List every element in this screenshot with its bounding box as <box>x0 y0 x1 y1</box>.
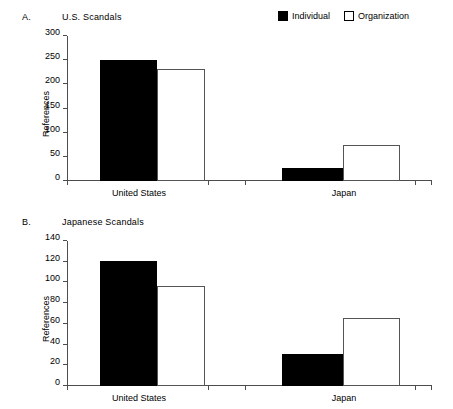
plot-area-b: References 0 20 40 60 80 100 120 140 <box>67 241 432 386</box>
x-tick-a-sep1 <box>208 181 209 185</box>
bar-b-united-states-organization <box>157 286 205 387</box>
y-tick-label-b-140: 140 <box>45 232 60 242</box>
bar-a-japan-organization <box>343 145 400 181</box>
y-tick-label-b-0: 0 <box>55 377 60 387</box>
x-category-label-a-united-states: United States <box>112 188 166 198</box>
panel-b-letter: B. <box>22 217 31 227</box>
y-tick-a-200 <box>63 83 67 84</box>
y-tick-b-120 <box>63 261 67 262</box>
y-tick-label-b-120: 120 <box>45 253 60 263</box>
x-tick-b-end <box>431 386 432 390</box>
open-square-icon <box>344 11 354 21</box>
x-tick-b-start <box>67 386 68 390</box>
figure: A. U.S. Scandals Individual Organization… <box>0 0 453 409</box>
legend-entry-organization: Organization <box>344 11 409 21</box>
y-tick-a-250 <box>63 59 67 60</box>
y-tick-b-40 <box>63 344 67 345</box>
y-tick-label-a-200: 200 <box>45 75 60 85</box>
y-tick-a-50 <box>63 156 67 157</box>
y-axis-a <box>67 36 68 181</box>
bar-a-united-states-individual <box>100 60 157 181</box>
bar-a-japan-individual <box>282 168 343 182</box>
legend: Individual Organization <box>278 11 409 21</box>
y-tick-label-a-100: 100 <box>45 124 60 134</box>
x-tick-a-sep3 <box>415 181 416 185</box>
y-tick-b-80 <box>63 302 67 303</box>
y-tick-label-a-50: 50 <box>50 148 60 158</box>
panel-b-title: Japanese Scandals <box>62 217 144 227</box>
x-category-label-b-united-states: United States <box>112 393 166 403</box>
legend-label-individual: Individual <box>292 11 330 21</box>
y-tick-label-b-20: 20 <box>50 356 60 366</box>
filled-square-icon <box>278 11 288 21</box>
x-category-label-b-japan: Japan <box>332 393 357 403</box>
legend-label-organization: Organization <box>358 11 409 21</box>
y-tick-label-a-250: 250 <box>45 51 60 61</box>
y-tick-label-b-80: 80 <box>50 294 60 304</box>
x-tick-a-start <box>67 181 68 185</box>
y-tick-a-100 <box>63 132 67 133</box>
y-axis-b <box>67 241 68 386</box>
bar-b-united-states-individual <box>100 261 157 386</box>
x-category-label-a-japan: Japan <box>332 188 357 198</box>
panel-a-title: U.S. Scandals <box>62 12 122 22</box>
x-tick-b-sep1 <box>208 386 209 390</box>
y-tick-label-b-40: 40 <box>50 336 60 346</box>
x-tick-b-sep2 <box>245 386 246 390</box>
panel-a: A. U.S. Scandals Individual Organization… <box>0 0 453 205</box>
bar-b-japan-individual <box>282 354 343 386</box>
y-tick-label-a-0: 0 <box>55 172 60 182</box>
y-tick-a-300 <box>63 35 67 36</box>
y-tick-label-b-100: 100 <box>45 273 60 283</box>
y-tick-label-a-300: 300 <box>45 27 60 37</box>
y-tick-label-b-60: 60 <box>50 315 60 325</box>
x-tick-b-sep3 <box>415 386 416 390</box>
y-tick-b-20 <box>63 364 67 365</box>
legend-entry-individual: Individual <box>278 11 330 21</box>
panel-a-letter: A. <box>22 12 31 22</box>
x-tick-a-sep2 <box>245 181 246 185</box>
y-tick-a-150 <box>63 108 67 109</box>
y-tick-label-a-150: 150 <box>45 100 60 110</box>
x-tick-a-end <box>431 181 432 185</box>
y-tick-b-100 <box>63 281 67 282</box>
bar-a-united-states-organization <box>157 69 205 181</box>
y-tick-b-60 <box>63 323 67 324</box>
plot-area-a: References 0 50 100 150 200 250 300 <box>67 36 432 181</box>
y-tick-b-140 <box>63 240 67 241</box>
panel-b: B. Japanese Scandals References 0 20 40 … <box>0 205 453 409</box>
bar-b-japan-organization <box>343 318 400 386</box>
